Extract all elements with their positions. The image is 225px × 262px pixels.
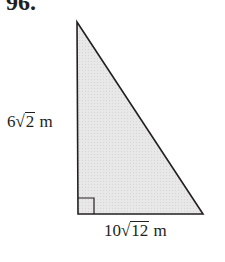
radical-sign-icon: √	[16, 112, 25, 132]
bottom-side-length-label: 10√12 m	[104, 221, 167, 241]
bottom-radicand: 12	[130, 221, 149, 239]
bottom-unit: m	[149, 221, 166, 240]
bottom-coefficient: 10	[104, 221, 121, 240]
left-side-length-label: 6√2 m	[7, 112, 53, 132]
left-radical: √2	[16, 112, 36, 132]
left-radicand: 2	[25, 112, 36, 130]
left-unit: m	[35, 112, 52, 131]
left-coefficient: 6	[7, 112, 16, 131]
radical-sign-icon: √	[121, 221, 130, 241]
triangle-shape	[77, 22, 203, 214]
bottom-radical: √12	[121, 221, 149, 241]
